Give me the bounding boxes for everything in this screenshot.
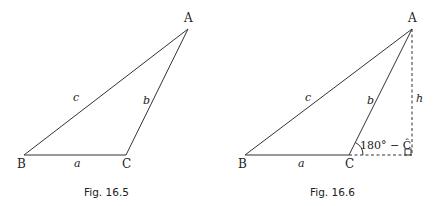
vertex-label-b: B <box>238 157 247 171</box>
diagram-canvas: A B C c b a Fig. 16.5 A B C c b a h 180°… <box>0 0 434 206</box>
vertex-label-a: A <box>183 11 193 25</box>
figure-caption: Fig. 16.5 <box>84 186 129 198</box>
triangle-abc <box>245 29 412 155</box>
vertex-label-c: C <box>122 157 131 171</box>
side-label-b: b <box>143 94 150 107</box>
triangle-abc <box>24 29 188 155</box>
vertex-label-a: A <box>407 11 417 25</box>
figure-16-6: A B C c b a h 180° − Ĉ Fig. 16.6 <box>238 11 423 198</box>
vertex-label-c: C <box>345 157 354 171</box>
vertex-label-b: B <box>17 157 26 171</box>
side-label-a: a <box>74 157 81 170</box>
side-label-c: c <box>73 91 79 104</box>
figure-caption: Fig. 16.6 <box>310 186 355 198</box>
side-label-b: b <box>367 94 374 107</box>
side-label-a: a <box>298 157 305 170</box>
angle-label: 180° − Ĉ <box>360 138 411 152</box>
side-label-c: c <box>305 91 311 104</box>
figure-16-5: A B C c b a Fig. 16.5 <box>17 11 193 198</box>
side-label-h: h <box>416 92 423 105</box>
